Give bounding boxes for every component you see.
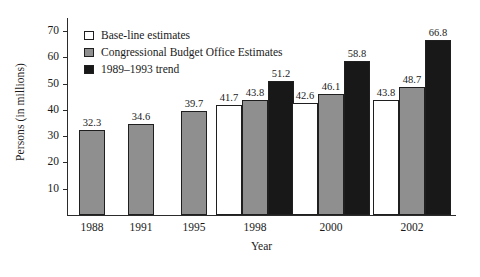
legend-swatch-baseline [84, 31, 94, 40]
y-axis-tick: 60 [0, 57, 67, 58]
x-axis-tick-label-1991: 1991 [111, 220, 171, 235]
bar-value-label: 34.6 [122, 111, 160, 123]
bar-2000-baseline [292, 103, 318, 215]
y-axis-tick-label: 60 [48, 49, 60, 64]
bar-value-label: 58.8 [338, 48, 376, 60]
legend-swatch-trend [84, 65, 94, 74]
legend-swatch-cbo [84, 48, 94, 57]
bar-1988-cbo [79, 130, 105, 215]
legend-label: Base-line estimates [101, 29, 190, 42]
bar-value-label: 39.7 [175, 98, 213, 110]
x-axis-tick-label-2002: 2002 [382, 220, 442, 235]
legend-item-cbo: Congressional Budget Office Estimates [84, 45, 283, 60]
legend-label: 1989–1993 trend [101, 63, 179, 76]
legend-item-trend: 1989–1993 trend [84, 62, 283, 77]
bar-1995-cbo [181, 111, 207, 215]
x-axis-tick-label-2000: 2000 [301, 220, 361, 235]
x-axis-tick-label-1998: 1998 [225, 220, 285, 235]
y-axis-tick: 20 [0, 162, 67, 163]
y-axis-tick-label: 30 [48, 128, 60, 143]
legend-item-baseline: Base-line estimates [84, 28, 283, 43]
bar-1998-cbo [242, 100, 268, 215]
bar-2000-trend [344, 61, 370, 215]
bar-1991-cbo [128, 124, 154, 215]
legend-label: Congressional Budget Office Estimates [101, 46, 283, 59]
y-axis-tick-label: 70 [48, 23, 60, 38]
chart-legend: Base-line estimatesCongressional Budget … [84, 28, 283, 79]
x-axis-title: Year [67, 240, 456, 252]
y-axis-tick: 70 [0, 31, 67, 32]
y-axis-tick: 50 [0, 84, 67, 85]
x-axis-line [67, 215, 456, 216]
bar-2002-trend [425, 40, 451, 215]
x-axis-tick-label-1995: 1995 [164, 220, 224, 235]
bar-value-label: 66.8 [419, 27, 457, 39]
y-axis-tick: 10 [0, 189, 67, 190]
bar-2000-cbo [318, 94, 344, 215]
bar-2002-baseline [373, 100, 399, 215]
y-axis-tick-label: 40 [48, 102, 60, 117]
bar-1998-baseline [216, 105, 242, 215]
bar-2002-cbo [399, 87, 425, 215]
bar-chart: Persons (in millions) 10203040506070 32.… [0, 0, 480, 277]
y-axis-tick-label: 20 [48, 154, 60, 169]
y-axis-tick-label: 10 [48, 181, 60, 196]
y-axis-tick-label: 50 [48, 76, 60, 91]
y-axis-title: Persons (in millions) [14, 12, 30, 212]
y-axis-tick: 40 [0, 110, 67, 111]
bar-value-label: 32.3 [73, 117, 111, 129]
y-axis-tick: 30 [0, 136, 67, 137]
